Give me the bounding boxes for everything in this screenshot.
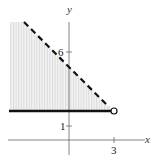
open-circle-marker [111, 108, 117, 114]
shaded-region [10, 22, 112, 111]
x-axis-label: x [144, 133, 150, 145]
graph: y x 6 1 3 [0, 0, 153, 158]
x-tick-label-3: 3 [111, 144, 117, 156]
y-tick-label-6: 6 [58, 46, 64, 58]
y-axis-label: y [66, 3, 72, 15]
y-tick-label-1: 1 [60, 120, 66, 132]
